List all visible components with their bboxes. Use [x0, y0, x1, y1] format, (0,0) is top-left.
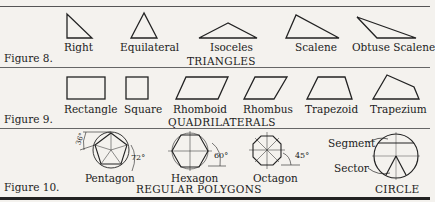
angle-label: 45° [295, 151, 309, 160]
rhombus-icon [244, 77, 287, 99]
scalene-triangle-icon [286, 15, 339, 38]
obtuse-scalene-triangle-icon [357, 17, 416, 38]
pentagon-icon [80, 132, 135, 171]
figure-label: Figure 8. [4, 52, 53, 64]
circle-icon [368, 132, 420, 180]
angle-label: 72° [131, 153, 145, 162]
equilateral-triangle-icon [131, 13, 157, 38]
section-title: TRIANGLES [187, 55, 256, 67]
shape-label: Rectangle [64, 103, 118, 115]
isoceles-triangle-icon [199, 23, 257, 38]
shape-label: Equilateral [120, 41, 179, 53]
octagon-icon [249, 132, 300, 169]
shape-label: Rhomboid [173, 103, 227, 115]
shape-label: Rhombus [243, 103, 293, 115]
section-title-circle: CIRCLE [375, 183, 420, 195]
shape-label: Isoceles [210, 41, 253, 53]
square-icon [126, 77, 148, 99]
trapezoid-icon [307, 77, 352, 99]
figure-label: Figure 9. [4, 113, 53, 125]
figure-label: Figure 10. [4, 181, 59, 193]
circle-part-label: Segment [328, 137, 375, 149]
shape-label: Scalene [295, 41, 337, 53]
trapezium-icon [373, 75, 419, 99]
rhomboid-icon [176, 77, 228, 99]
shape-label: Trapezoid [305, 103, 358, 115]
shape-label: Trapezium [370, 103, 427, 115]
angle-label: 60° [214, 151, 228, 160]
section-title: QUADRILATERALS [168, 116, 276, 128]
shape-label: Obtuse Scalene [352, 41, 435, 53]
section-title: REGULAR POLYGONS [136, 183, 262, 195]
shape-label: Right [64, 41, 93, 53]
circle-part-label: Sector [334, 162, 369, 174]
shape-label: Pentagon [85, 172, 135, 184]
right-triangle-icon [67, 14, 92, 38]
rectangle-icon [67, 77, 105, 99]
shape-label: Square [124, 103, 162, 115]
